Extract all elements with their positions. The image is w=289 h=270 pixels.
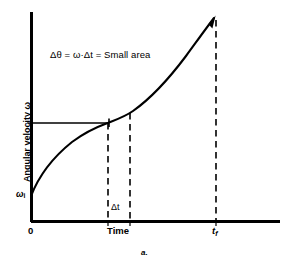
area-annotation-label: Δθ = ω·Δt = Small area	[50, 50, 150, 60]
plot-canvas	[0, 0, 289, 270]
curve-tip-arrowhead	[208, 16, 215, 29]
y-axis-title: Angular velocity ω	[23, 102, 32, 182]
omega-initial-label: ωi	[16, 190, 25, 200]
t-final-label: tf	[212, 226, 218, 238]
figure-container: Δθ = ω·Δt = Small area Angular velocity …	[0, 0, 289, 270]
angular-velocity-curve	[31, 18, 214, 196]
x-axis-origin-label: 0	[28, 226, 33, 236]
x-axis-title: Time	[107, 226, 129, 236]
t-final-subscript: f	[215, 230, 217, 238]
figure-caption: a.	[141, 249, 148, 257]
omega-initial-subscript: i	[24, 192, 26, 199]
omega-initial-symbol: ω	[16, 189, 24, 199]
delta-t-label: Δt	[111, 203, 120, 212]
